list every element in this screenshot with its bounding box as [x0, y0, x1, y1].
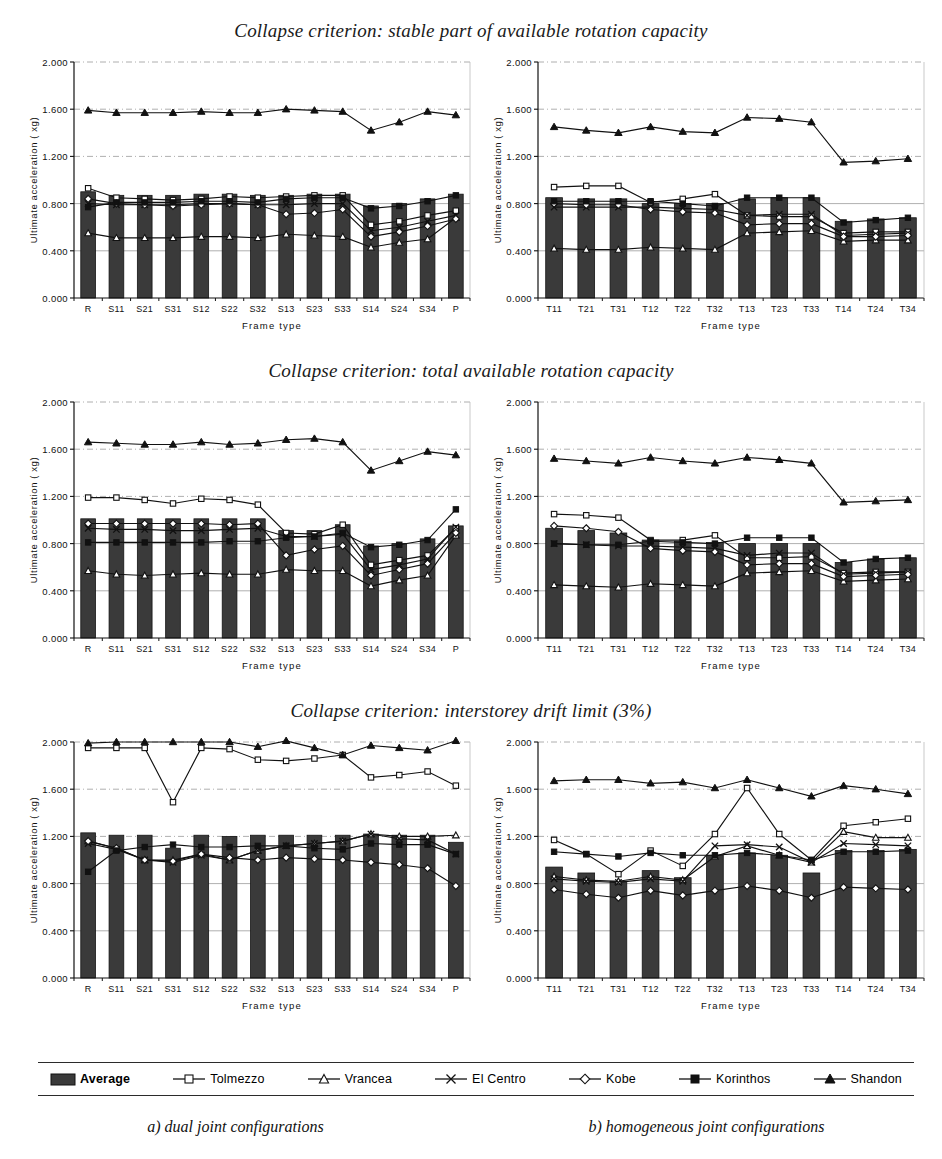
legend-item-el-centro[interactable]: El Centro: [434, 1072, 526, 1086]
legend-label: Korinthos: [716, 1072, 771, 1086]
y-tick-label: 1.200: [18, 151, 68, 162]
y-axis-label: Ultimate acceleration ( xg): [28, 742, 39, 978]
x-tick-label: T33: [803, 984, 819, 994]
y-axis-label: Ultimate acceleration ( xg): [28, 402, 39, 638]
y-tick-label: 1.200: [18, 491, 68, 502]
x-tick-label: T31: [610, 644, 626, 654]
chart-row-1: Ultimate acceleration ( xg)0.0000.4000.8…: [18, 52, 932, 338]
x-tick-label: T31: [610, 984, 626, 994]
x-tick-label: S31: [165, 984, 182, 994]
x-tick-label: T21: [578, 984, 594, 994]
x-tick-label: T33: [803, 304, 819, 314]
legend-item-shandon[interactable]: Shandon: [813, 1072, 902, 1086]
legend-label: Shandon: [851, 1072, 902, 1086]
x-tick-label: S24: [391, 304, 408, 314]
x-tick-label: S32: [249, 984, 266, 994]
x-tick-label: T12: [642, 644, 658, 654]
x-tick-label: S34: [419, 304, 436, 314]
legend-item-average[interactable]: Average: [50, 1072, 130, 1086]
x-tick-label: T21: [578, 644, 594, 654]
x-tick-label: R: [85, 984, 92, 994]
x-tick-label: S32: [249, 304, 266, 314]
x-tick-label: S11: [108, 644, 124, 654]
x-tick-label: T11: [546, 644, 562, 654]
x-tick-label: S34: [419, 984, 436, 994]
x-tick-label: P: [453, 304, 459, 314]
caption-left: a) dual joint configurations: [0, 1118, 471, 1136]
x-tick-label: S12: [193, 304, 210, 314]
x-tick-label: T11: [546, 304, 562, 314]
x-tick-label: T13: [739, 644, 755, 654]
y-tick-label: 0.800: [18, 198, 68, 209]
x-tick-label: S11: [108, 984, 124, 994]
x-tick-label: T22: [675, 984, 691, 994]
plot-area: [482, 732, 932, 1002]
legend-label: Vrancea: [345, 1072, 393, 1086]
x-tick-label: S24: [391, 644, 408, 654]
section-title-2: Collapse criterion: total available rota…: [0, 360, 942, 382]
x-tick-label: S11: [108, 304, 124, 314]
x-tick-label: S34: [419, 644, 436, 654]
plot-area: [18, 52, 478, 322]
legend-item-tolmezzo[interactable]: Tolmezzo: [172, 1072, 264, 1086]
filled-triangle-icon: [813, 1072, 847, 1086]
x-tick-label: S23: [306, 644, 323, 654]
legend-label: Tolmezzo: [210, 1072, 264, 1086]
y-tick-label: 2.000: [482, 397, 532, 408]
y-tick-label: 2.000: [18, 57, 68, 68]
legend-item-korinthos[interactable]: Korinthos: [678, 1072, 771, 1086]
x-tick-label: R: [85, 644, 92, 654]
x-tick-label: T32: [707, 984, 723, 994]
legend-item-kobe[interactable]: Kobe: [568, 1072, 636, 1086]
y-tick-label: 2.000: [482, 737, 532, 748]
x-tick-label: S13: [278, 304, 295, 314]
x-tick-label: S12: [193, 644, 210, 654]
x-tick-label: T14: [835, 304, 851, 314]
y-tick-label: 1.200: [18, 831, 68, 842]
y-tick-label: 1.600: [18, 784, 68, 795]
plot-area: [482, 392, 932, 662]
chart-panel-stable-dual: Ultimate acceleration ( xg)0.0000.4000.8…: [18, 52, 478, 338]
x-tick-label: S33: [334, 644, 351, 654]
x-tick-label: S13: [278, 984, 295, 994]
plot-area: [482, 52, 932, 322]
chart-panel-total-homogeneous: Ultimate acceleration ( xg)0.0000.4000.8…: [482, 392, 932, 678]
section-title-1: Collapse criterion: stable part of avail…: [0, 20, 942, 42]
bar-swatch-icon: [50, 1072, 76, 1086]
x-tick-label: T14: [835, 984, 851, 994]
x-tick-label: S14: [363, 644, 380, 654]
x-tick-label: T34: [900, 644, 916, 654]
y-tick-label: 0.000: [482, 293, 532, 304]
y-tick-label: 0.000: [18, 293, 68, 304]
x-tick-label: T24: [868, 644, 884, 654]
chart-panel-drift-homogeneous: Ultimate acceleration ( xg)0.0000.4000.8…: [482, 732, 932, 1018]
cross-x-icon: [434, 1072, 468, 1086]
open-triangle-icon: [307, 1072, 341, 1086]
x-tick-label: S33: [334, 304, 351, 314]
x-tick-label: S14: [363, 304, 380, 314]
y-axis-label: Ultimate acceleration ( xg): [492, 402, 503, 638]
x-tick-label: S32: [249, 644, 266, 654]
x-tick-label: T22: [675, 304, 691, 314]
plot-area: [18, 732, 478, 1002]
y-tick-label: 1.200: [482, 151, 532, 162]
legend-label: El Centro: [472, 1072, 526, 1086]
x-tick-label: P: [453, 984, 459, 994]
y-tick-label: 0.800: [482, 878, 532, 889]
filled-square-icon: [678, 1072, 712, 1086]
y-tick-label: 1.600: [18, 104, 68, 115]
x-axis-label: Frame type: [74, 320, 470, 331]
x-axis-label: Frame type: [538, 660, 924, 671]
x-tick-label: T34: [900, 304, 916, 314]
y-tick-label: 2.000: [18, 397, 68, 408]
x-tick-label: S13: [278, 644, 295, 654]
x-tick-label: T14: [835, 644, 851, 654]
y-tick-label: 0.000: [18, 973, 68, 984]
legend-item-vrancea[interactable]: Vrancea: [307, 1072, 393, 1086]
x-tick-label: T13: [739, 984, 755, 994]
y-tick-label: 1.600: [18, 444, 68, 455]
y-tick-label: 0.800: [18, 878, 68, 889]
x-tick-label: T32: [707, 304, 723, 314]
x-tick-label: S21: [136, 984, 153, 994]
x-tick-label: S23: [306, 984, 323, 994]
